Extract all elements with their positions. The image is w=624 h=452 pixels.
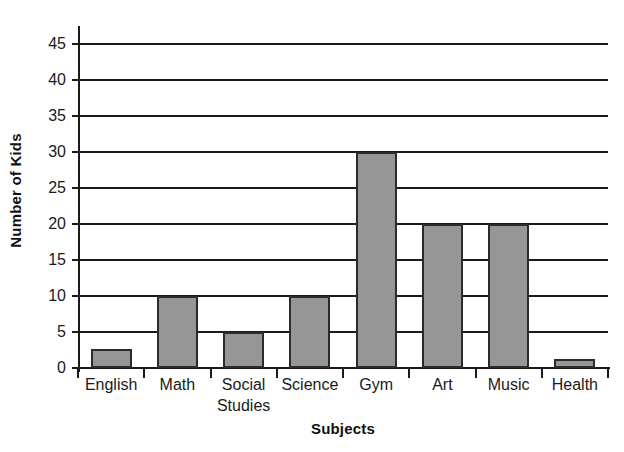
x-tick-label-line: Math	[160, 376, 196, 393]
y-tick-mark	[72, 295, 79, 297]
y-tick-label: 35	[48, 107, 66, 125]
bar-chart: Number of Kids 051015202530354045 Subjec…	[0, 0, 624, 452]
x-tick-mark	[607, 369, 609, 378]
gridline	[78, 43, 608, 45]
y-tick-mark	[72, 259, 79, 261]
x-tick-label-line: Studies	[205, 395, 283, 416]
bar	[289, 296, 330, 368]
x-tick-label-line: Music	[488, 376, 530, 393]
y-tick-label: 5	[57, 323, 66, 341]
y-tick-mark	[72, 43, 79, 45]
y-tick-label: 20	[48, 215, 66, 233]
bar	[223, 332, 264, 368]
y-tick-mark	[72, 223, 79, 225]
gridline	[78, 187, 608, 189]
bar	[422, 224, 463, 368]
x-tick-label: Health	[536, 374, 614, 395]
bar	[91, 349, 132, 368]
x-tick-label-line: Social	[222, 376, 266, 393]
bar	[488, 224, 529, 368]
y-tick-label: 30	[48, 143, 66, 161]
y-tick-label: 15	[48, 251, 66, 269]
y-tick-mark	[72, 187, 79, 189]
x-tick-label-line: Health	[552, 376, 598, 393]
gridline	[78, 151, 608, 153]
y-axis-tick-labels: 051015202530354045	[30, 0, 74, 452]
y-tick-label: 45	[48, 35, 66, 53]
gridline	[78, 115, 608, 117]
x-axis-title: Subjects	[78, 420, 608, 437]
plot-area	[78, 30, 608, 368]
y-tick-label: 40	[48, 71, 66, 89]
y-tick-mark	[72, 79, 79, 81]
x-tick-label-line: Art	[432, 376, 452, 393]
y-tick-label: 0	[57, 359, 66, 377]
x-tick-label-line: Gym	[359, 376, 393, 393]
y-tick-mark	[72, 331, 79, 333]
x-tick-label-line: Science	[281, 376, 338, 393]
y-axis-title: Number of Kids	[0, 0, 30, 380]
y-tick-mark	[72, 115, 79, 117]
y-axis-title-text: Number of Kids	[7, 133, 24, 247]
bar	[157, 296, 198, 368]
bar	[356, 152, 397, 368]
y-tick-label: 10	[48, 287, 66, 305]
bar	[554, 359, 595, 368]
y-tick-label: 25	[48, 179, 66, 197]
x-tick-label-line: English	[85, 376, 137, 393]
y-tick-mark	[72, 151, 79, 153]
gridline	[78, 79, 608, 81]
